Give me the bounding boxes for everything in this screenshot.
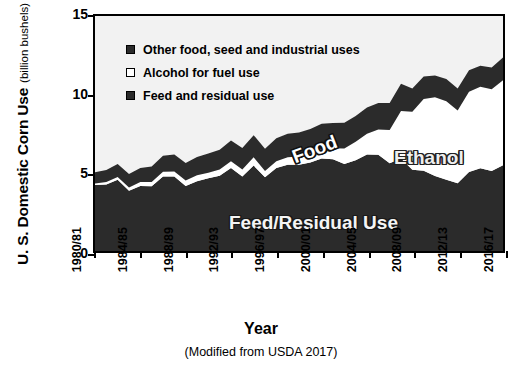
y-axis-tick-labels: 051015: [52, 0, 88, 371]
x-axis-tick-label: 2008/09: [405, 258, 421, 320]
x-axis-tick-mark: [186, 251, 188, 258]
x-axis-tick-label: 1988/89: [177, 258, 193, 320]
y-axis-tick-mark: [88, 95, 95, 97]
x-axis-tick-label: 1980/81: [85, 258, 101, 320]
legend-item-label: Feed and residual use: [143, 89, 274, 103]
x-axis-tick-mark: [140, 251, 142, 258]
y-axis-tick-mark: [88, 15, 95, 17]
x-axis-tick-mark: [506, 251, 508, 258]
y-axis-tick-label: 5: [58, 165, 88, 181]
x-axis-tick-mark: [94, 251, 96, 258]
x-axis-tick-label: 2000/01: [314, 258, 330, 320]
y-axis-title: U. S. Domestic Corn Use (billion bushels…: [0, 14, 46, 254]
x-axis-tick-label: 1992/93: [222, 258, 238, 320]
x-axis-tick-mark: [277, 251, 279, 258]
x-axis-tick-label: 1984/85: [131, 258, 147, 320]
x-axis-tick-mark: [414, 251, 416, 258]
legend-swatch-icon: [126, 45, 135, 54]
chart-legend: Other food, seed and industrial usesAlco…: [126, 40, 360, 109]
legend-item: Feed and residual use: [126, 86, 360, 105]
y-axis-tick-label: 10: [58, 86, 88, 102]
y-axis-tick-label: 15: [58, 6, 88, 22]
legend-item: Alcohol for fuel use: [126, 63, 360, 82]
y-axis-tick-mark: [88, 174, 95, 176]
figure-caption: (Modified from USDA 2017): [0, 345, 522, 359]
corn-use-figure: U. S. Domestic Corn Use (billion bushels…: [0, 0, 522, 371]
x-axis-tick-label: 2012/13: [451, 258, 467, 320]
x-axis-tick-mark: [369, 251, 371, 258]
x-axis-tick-mark: [323, 251, 325, 258]
x-axis-tick-mark: [460, 251, 462, 258]
x-axis-tick-mark: [231, 251, 233, 258]
legend-item: Other food, seed and industrial uses: [126, 40, 360, 59]
x-axis-tick-label: 2016/17: [497, 258, 513, 320]
x-axis-tick-label: 2004/05: [360, 258, 376, 320]
x-axis-tick-label: 1996/97: [268, 258, 284, 320]
legend-item-label: Other food, seed and industrial uses: [143, 43, 360, 57]
x-axis-title: Year: [0, 320, 522, 338]
legend-swatch-icon: [126, 68, 135, 77]
y-axis-title-main: U. S. Domestic Corn Use: [14, 88, 32, 265]
legend-item-label: Alcohol for fuel use: [143, 66, 260, 80]
legend-swatch-icon: [126, 91, 135, 100]
y-axis-title-units: (billion bushels): [18, 3, 30, 83]
